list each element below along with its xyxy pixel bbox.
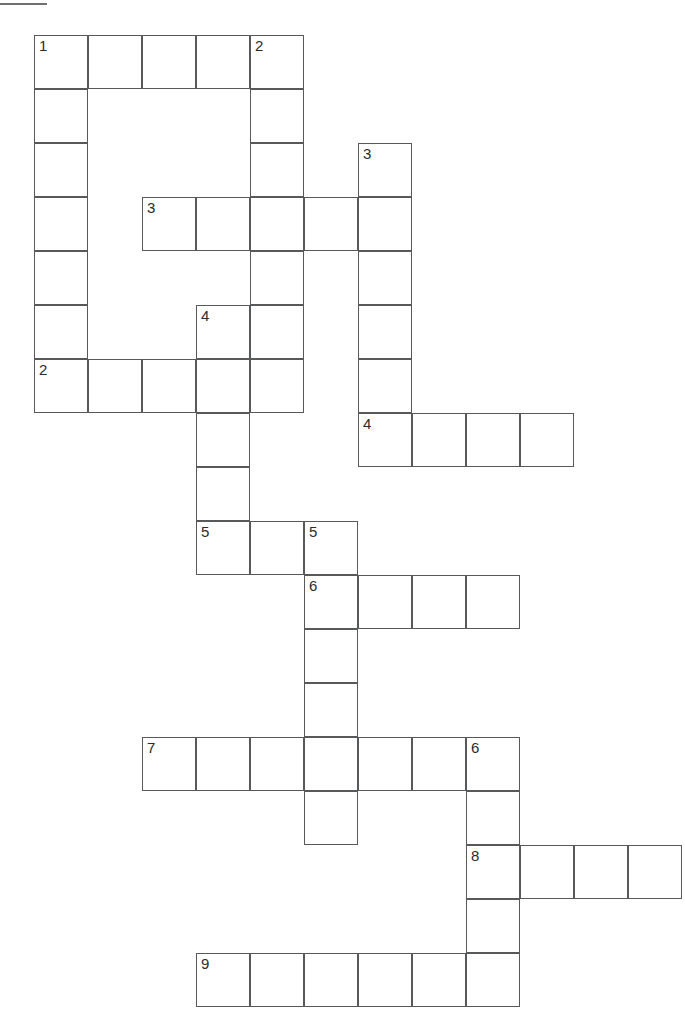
crossword-cell-numbered[interactable]: 8: [466, 845, 520, 899]
cell-number: 4: [363, 415, 371, 432]
crossword-cell[interactable]: [466, 413, 520, 467]
crossword-cell[interactable]: [34, 143, 88, 197]
crossword-cell[interactable]: [358, 197, 412, 251]
crossword-cell[interactable]: [142, 35, 196, 89]
top-left-rule-upper: [0, 3, 47, 5]
crossword-grid: 12334245567689: [0, 0, 685, 1028]
cell-number: 3: [147, 199, 155, 216]
crossword-cell[interactable]: [34, 305, 88, 359]
cell-number: 4: [201, 307, 209, 324]
cell-number: 6: [471, 739, 479, 756]
crossword-cell-numbered[interactable]: 9: [196, 953, 250, 1007]
crossword-cell[interactable]: [304, 683, 358, 737]
crossword-cell[interactable]: [250, 305, 304, 359]
crossword-cell[interactable]: [358, 737, 412, 791]
crossword-cell-numbered[interactable]: 5: [196, 521, 250, 575]
cell-number: 7: [147, 739, 155, 756]
crossword-cell[interactable]: [466, 953, 520, 1007]
crossword-cell[interactable]: [412, 737, 466, 791]
crossword-cell[interactable]: [250, 197, 304, 251]
crossword-cell[interactable]: [304, 629, 358, 683]
crossword-cell[interactable]: [304, 737, 358, 791]
crossword-cell[interactable]: [142, 359, 196, 413]
crossword-cell[interactable]: [250, 89, 304, 143]
cell-number: 5: [309, 523, 317, 540]
cell-number: 5: [201, 523, 209, 540]
crossword-cell[interactable]: [466, 575, 520, 629]
crossword-cell[interactable]: [466, 791, 520, 845]
crossword-cell[interactable]: [34, 251, 88, 305]
crossword-cell-numbered[interactable]: 6: [304, 575, 358, 629]
crossword-cell[interactable]: [196, 197, 250, 251]
crossword-cell[interactable]: [358, 305, 412, 359]
crossword-cell[interactable]: [412, 413, 466, 467]
crossword-cell[interactable]: [250, 737, 304, 791]
crossword-cell[interactable]: [358, 359, 412, 413]
crossword-cell[interactable]: [628, 845, 682, 899]
cell-number: 1: [39, 37, 47, 54]
crossword-cell[interactable]: [520, 845, 574, 899]
crossword-cell-numbered[interactable]: 4: [196, 305, 250, 359]
crossword-cell[interactable]: [304, 197, 358, 251]
crossword-cell[interactable]: [250, 143, 304, 197]
crossword-cell-numbered[interactable]: 2: [250, 35, 304, 89]
crossword-cell-numbered[interactable]: 3: [358, 143, 412, 197]
crossword-cell[interactable]: [250, 359, 304, 413]
cell-number: 6: [309, 577, 317, 594]
crossword-cell-numbered[interactable]: 7: [142, 737, 196, 791]
crossword-cell[interactable]: [574, 845, 628, 899]
crossword-cell[interactable]: [196, 413, 250, 467]
crossword-cell[interactable]: [196, 467, 250, 521]
crossword-cell[interactable]: [88, 359, 142, 413]
crossword-cell[interactable]: [466, 899, 520, 953]
crossword-cell[interactable]: [304, 791, 358, 845]
crossword-cell-numbered[interactable]: 4: [358, 413, 412, 467]
crossword-cell-numbered[interactable]: 5: [304, 521, 358, 575]
crossword-cell[interactable]: [412, 953, 466, 1007]
crossword-cell[interactable]: [250, 521, 304, 575]
crossword-cell[interactable]: [88, 35, 142, 89]
crossword-cell[interactable]: [196, 359, 250, 413]
cell-number: 2: [255, 37, 263, 54]
crossword-cell[interactable]: [358, 953, 412, 1007]
crossword-cell-numbered[interactable]: 3: [142, 197, 196, 251]
crossword-cell[interactable]: [34, 197, 88, 251]
crossword-cell[interactable]: [304, 953, 358, 1007]
crossword-cell-numbered[interactable]: 2: [34, 359, 88, 413]
crossword-cell[interactable]: [358, 575, 412, 629]
crossword-cell[interactable]: [196, 737, 250, 791]
cell-number: 3: [363, 145, 371, 162]
crossword-cell[interactable]: [520, 413, 574, 467]
crossword-cell[interactable]: [358, 251, 412, 305]
crossword-cell[interactable]: [34, 89, 88, 143]
cell-number: 8: [471, 847, 479, 864]
crossword-cell-numbered[interactable]: 6: [466, 737, 520, 791]
crossword-cell[interactable]: [412, 575, 466, 629]
crossword-cell-numbered[interactable]: 1: [34, 35, 88, 89]
cell-number: 9: [201, 955, 209, 972]
crossword-cell[interactable]: [250, 953, 304, 1007]
cell-number: 2: [39, 361, 47, 378]
crossword-cell[interactable]: [196, 35, 250, 89]
crossword-cell[interactable]: [250, 251, 304, 305]
